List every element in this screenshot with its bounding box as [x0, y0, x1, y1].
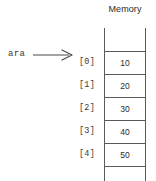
- memory-cell-bottom-empty: [104, 166, 146, 181]
- memory-cell-value-1: 20: [104, 75, 146, 97]
- memory-column-header: Memory: [100, 4, 150, 14]
- pointer-arrow: [33, 47, 75, 63]
- memory-cell-list: 10 20 30 40 50: [104, 28, 146, 181]
- memory-cell-top-empty: [104, 28, 146, 51]
- index-label-1: [1]: [74, 74, 100, 97]
- index-label-4: [4]: [74, 143, 100, 166]
- index-label-2: [2]: [74, 97, 100, 120]
- memory-cell-4: 50: [104, 143, 146, 166]
- index-label-column: [0] [1] [2] [3] [4]: [74, 28, 100, 166]
- memory-cell-3: 40: [104, 120, 146, 143]
- index-label-top-empty: [74, 28, 100, 51]
- memory-cell-2: 30: [104, 97, 146, 120]
- memory-cell-value-top-empty: [104, 28, 146, 50]
- right-arrow-icon: [33, 47, 75, 63]
- memory-cell-value-4: 50: [104, 144, 146, 166]
- memory-array-diagram: Memory ara [0] [1] [2] [3] [4] 10 20: [0, 0, 156, 181]
- memory-cell-1: 20: [104, 74, 146, 97]
- index-label-3: [3]: [74, 120, 100, 143]
- memory-cell-value-3: 40: [104, 121, 146, 143]
- index-label-0: [0]: [74, 51, 100, 74]
- memory-cell-value-2: 30: [104, 98, 146, 120]
- memory-cell-value-0: 10: [104, 52, 146, 74]
- memory-cell-0: 10: [104, 51, 146, 74]
- variable-name-label: ara: [8, 49, 25, 59]
- memory-column: 10 20 30 40 50: [104, 28, 146, 181]
- memory-cell-value-bottom-empty: [104, 167, 146, 181]
